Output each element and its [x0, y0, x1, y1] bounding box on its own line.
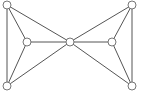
- node-bottom-left: [3, 82, 11, 90]
- node-left-mid: [23, 38, 31, 46]
- node-top-left: [3, 1, 11, 9]
- node-bottom-right: [128, 82, 136, 90]
- node-right-mid: [108, 38, 116, 46]
- node-center: [66, 38, 74, 46]
- bowtie-graph-diagram: [0, 0, 142, 91]
- edge-center-bottom-right: [70, 42, 132, 86]
- node-top-right: [128, 1, 136, 9]
- edge-bottom-left-center: [7, 42, 70, 86]
- edge-center-top-right: [70, 5, 132, 42]
